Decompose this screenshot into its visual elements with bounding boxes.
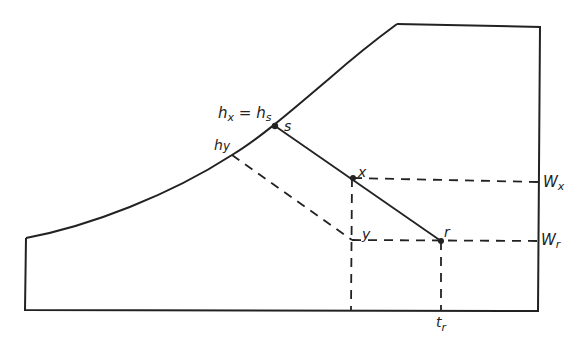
point-s bbox=[272, 123, 278, 129]
label-hx-eq-hs: hx = hs bbox=[218, 104, 272, 124]
label-s: s bbox=[284, 118, 291, 134]
label-wr: Wr bbox=[541, 231, 562, 251]
saturation-curve bbox=[26, 24, 397, 238]
humidity-line-wr bbox=[352, 240, 538, 241]
label-r: r bbox=[444, 224, 451, 240]
vertical-line-x bbox=[351, 178, 352, 311]
label-x: x bbox=[357, 164, 367, 180]
process-line-s-r bbox=[275, 126, 441, 241]
label-y: y bbox=[361, 226, 371, 242]
label-hy: hy bbox=[214, 137, 231, 153]
process-diagram: hx = hs s hy x y r Wx Wr tr bbox=[0, 0, 575, 354]
point-x bbox=[350, 175, 356, 181]
chart-boundary bbox=[25, 24, 540, 311]
label-tr: tr bbox=[436, 314, 448, 334]
humidity-line-wx bbox=[353, 178, 538, 182]
label-wx: Wx bbox=[543, 173, 565, 193]
